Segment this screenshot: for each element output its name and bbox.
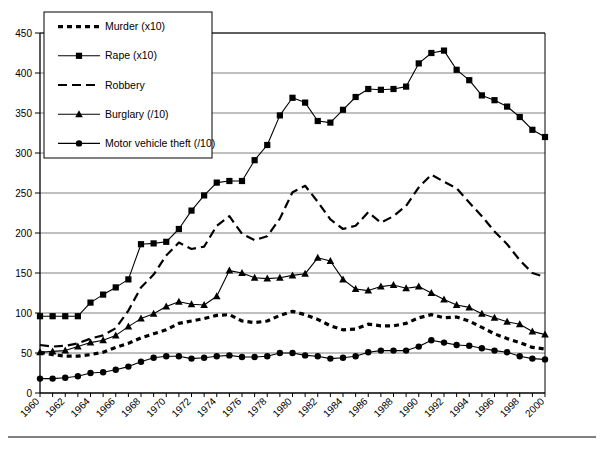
y-tick-label-350: 350 — [15, 108, 32, 119]
marker-square-1996 — [491, 97, 497, 103]
marker-circle-1995 — [479, 345, 485, 351]
marker-square-1994 — [466, 77, 472, 83]
marker-circle-1971 — [176, 353, 182, 359]
marker-circle-1970 — [163, 353, 169, 359]
marker-circle-1980 — [289, 350, 295, 356]
marker-square-1971 — [176, 226, 182, 232]
marker-square-1993 — [454, 67, 460, 73]
x-tick-label-1970: 1970 — [144, 395, 168, 419]
y-tick-label-100: 100 — [15, 308, 32, 319]
marker-circle-1999 — [529, 355, 535, 361]
marker-circle-1996 — [491, 347, 497, 353]
legend-label-rape-x10: Rape (x10) — [105, 49, 157, 61]
marker-circle-1977 — [251, 354, 257, 360]
x-tick-label-1984: 1984 — [321, 395, 345, 419]
marker-circle-2000 — [542, 356, 548, 362]
y-tick-label-450: 450 — [15, 28, 32, 39]
x-tick-label-1986: 1986 — [346, 395, 370, 419]
x-tick-label-1992: 1992 — [422, 395, 446, 419]
marker-triangle-1991 — [428, 289, 436, 296]
x-tick-label-1960: 1960 — [18, 395, 42, 419]
y-tick-label-200: 200 — [15, 228, 32, 239]
legend-label-burglary-10: Burglary (/10) — [105, 108, 169, 120]
marker-triangle-1975 — [226, 267, 234, 274]
marker-square-2000 — [542, 134, 548, 140]
marker-square-1982 — [315, 118, 321, 124]
marker-square-1988 — [390, 86, 396, 92]
marker-circle-1973 — [201, 355, 207, 361]
marker-square-1990 — [416, 60, 422, 66]
x-tick-label-1982: 1982 — [296, 395, 320, 419]
marker-square-1985 — [353, 94, 359, 100]
marker-circle-1966 — [113, 367, 119, 373]
marker-circle-1983 — [327, 355, 333, 361]
x-tick-label-1998: 1998 — [498, 395, 522, 419]
marker-circle-1984 — [340, 355, 346, 361]
marker-square-1999 — [529, 127, 535, 133]
x-tick-label-1968: 1968 — [119, 395, 143, 419]
marker-triangle-1990 — [415, 283, 423, 290]
marker-square-1961 — [50, 313, 56, 319]
marker-square-1968 — [138, 241, 144, 247]
marker-square-1984 — [340, 107, 346, 113]
marker-circle-1981 — [302, 352, 308, 358]
marker-square-1967 — [125, 276, 131, 282]
marker-square-1974 — [214, 180, 220, 186]
x-tick-label-1978: 1978 — [245, 395, 269, 419]
marker-square-1976 — [239, 178, 245, 184]
x-tick-label-1962: 1962 — [43, 395, 67, 419]
x-tick-label-1996: 1996 — [472, 395, 496, 419]
x-tick-label-1976: 1976 — [220, 395, 244, 419]
y-tick-label-250: 250 — [15, 188, 32, 199]
marker-circle-1978 — [264, 353, 270, 359]
x-tick-label-1972: 1972 — [169, 395, 193, 419]
marker-circle-1992 — [441, 339, 447, 345]
legend-marker-circle-4 — [76, 140, 82, 146]
marker-triangle-1967 — [125, 323, 133, 330]
marker-square-1962 — [62, 313, 68, 319]
marker-triangle-1993 — [453, 301, 461, 308]
legend-label-robbery: Robbery — [105, 79, 145, 91]
marker-square-1972 — [188, 208, 194, 214]
y-tick-label-150: 150 — [15, 268, 32, 279]
marker-square-1979 — [277, 112, 283, 118]
marker-square-1960 — [37, 313, 43, 319]
marker-triangle-1988 — [390, 281, 398, 288]
marker-circle-1967 — [125, 363, 131, 369]
marker-triangle-1999 — [529, 327, 537, 334]
x-tick-label-1980: 1980 — [270, 395, 294, 419]
marker-square-1981 — [302, 100, 308, 106]
x-tick-label-2000: 2000 — [523, 395, 547, 419]
chart-canvas: 0501001502002503003504004501960196219641… — [0, 0, 604, 452]
marker-circle-1962 — [62, 375, 68, 381]
marker-square-1997 — [504, 104, 510, 110]
marker-circle-1979 — [277, 350, 283, 356]
marker-circle-1987 — [378, 347, 384, 353]
marker-circle-1961 — [49, 375, 55, 381]
marker-circle-1993 — [453, 342, 459, 348]
marker-circle-1969 — [150, 355, 156, 361]
marker-circle-1960 — [37, 375, 43, 381]
marker-square-1992 — [441, 48, 447, 54]
marker-circle-1968 — [138, 359, 144, 365]
x-tick-label-1974: 1974 — [195, 395, 219, 419]
marker-circle-1964 — [87, 370, 93, 376]
legend-label-motor-vehicle-theft-10: Motor vehicle theft (/10) — [105, 137, 215, 149]
marker-square-1975 — [226, 178, 232, 184]
marker-square-1998 — [517, 114, 523, 120]
y-tick-label-50: 50 — [21, 348, 33, 359]
marker-square-1995 — [479, 92, 485, 98]
marker-circle-1997 — [504, 349, 510, 355]
marker-circle-1963 — [75, 373, 81, 379]
marker-square-1966 — [113, 284, 119, 290]
marker-square-1978 — [264, 142, 270, 148]
marker-circle-1975 — [226, 352, 232, 358]
marker-circle-1986 — [365, 349, 371, 355]
legend-marker-square-1 — [76, 53, 82, 59]
marker-circle-1985 — [352, 353, 358, 359]
legend-label-murder-x10: Murder (x10) — [105, 20, 165, 32]
marker-circle-1982 — [315, 353, 321, 359]
marker-circle-1994 — [466, 343, 472, 349]
x-tick-label-1988: 1988 — [371, 395, 395, 419]
marker-triangle-1985 — [352, 285, 360, 292]
